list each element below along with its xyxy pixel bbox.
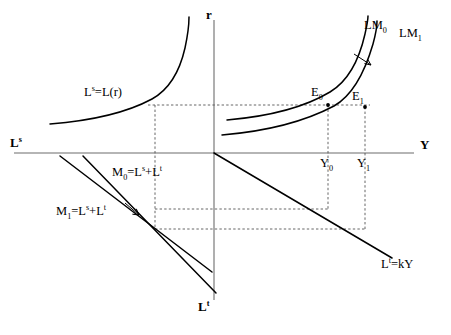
lm0-curve xyxy=(227,16,368,120)
income-0-label: Y0 xyxy=(320,157,333,170)
money-shift-arrow xyxy=(125,203,139,215)
speculative-demand-curve xyxy=(50,17,189,124)
income-1-label: Y1 xyxy=(357,157,370,170)
lm1-label: LM1 xyxy=(399,27,422,40)
lm-derivation-figure: r Y Ls Lt Ls=L(r) LM0 LM1 E0 E1 Y0 Y1 M0… xyxy=(0,0,451,335)
money-constraint-0-label: M0=Ls+Lt xyxy=(112,166,162,179)
equilibrium-0-label: E0 xyxy=(311,86,323,99)
axis-label-Ls: Ls xyxy=(10,136,22,149)
transactions-demand-label: Lt=kY xyxy=(381,258,413,271)
axis-label-r: r xyxy=(206,8,212,21)
axis-label-Y: Y xyxy=(420,138,429,151)
axis-label-Lt: Lt xyxy=(198,300,209,313)
lm0-label: LM0 xyxy=(364,19,387,32)
equilibrium-point-1 xyxy=(363,105,367,109)
equilibrium-point-0 xyxy=(326,103,330,107)
figure-canvas xyxy=(0,0,451,335)
money-constraint-1-label: M1=Ls+Lt xyxy=(56,205,106,218)
speculative-demand-label: Ls=L(r) xyxy=(84,86,122,99)
equilibrium-1-label: E1 xyxy=(352,90,364,103)
